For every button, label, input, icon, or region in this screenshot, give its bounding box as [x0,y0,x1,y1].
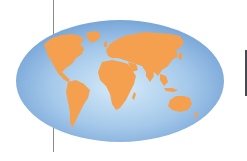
right-bar [245,50,247,96]
globe-ellipse [0,0,247,161]
world-map-graphic [0,0,247,161]
uk [104,41,107,47]
